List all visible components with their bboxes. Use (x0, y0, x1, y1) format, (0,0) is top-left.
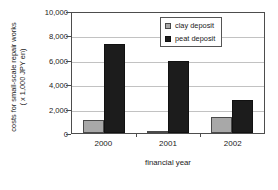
legend-label-peat: peat deposit (175, 34, 215, 43)
bar-peat-2001 (168, 61, 189, 133)
legend-entry-clay: clay deposit (165, 21, 215, 30)
x-axis-tick-mark (200, 134, 201, 137)
legend-swatch-clay (165, 23, 171, 29)
bar-clay-2000 (83, 120, 104, 133)
x-axis-tick-labels: 200020012002 (71, 139, 265, 153)
bar-group (72, 13, 136, 133)
x-axis-title: financial year (71, 158, 265, 167)
x-axis-tick-label-2002: 2002 (200, 139, 265, 153)
legend-label-clay: clay deposit (175, 21, 214, 30)
bar-peat-2000 (104, 44, 125, 133)
bar-clay-2001 (147, 131, 168, 133)
y-axis-title-line2: ( x 1,000 JPY en) (18, 49, 27, 106)
bar-peat-2002 (232, 100, 253, 133)
x-axis-tick-marks (71, 134, 265, 138)
x-axis-tick-label-2001: 2001 (136, 139, 201, 153)
legend-entry-peat: peat deposit (165, 34, 215, 43)
bar-clay-2002 (211, 117, 232, 133)
x-axis-tick-label-2000: 2000 (71, 139, 136, 153)
y-axis-tick-labels: 02,0004,0006,0008,00010,000 (28, 12, 68, 134)
y-axis-title-line1: costs for small-scale repair works (9, 22, 18, 131)
x-axis-tick-mark (136, 134, 137, 137)
legend: clay depositpeat deposit (160, 17, 222, 47)
bar-chart: costs for small-scale repair works ( x 1… (0, 0, 278, 190)
legend-swatch-peat (165, 36, 171, 42)
